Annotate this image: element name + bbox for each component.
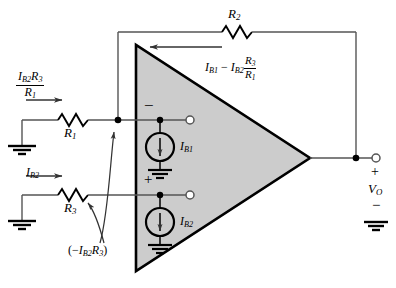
callout-arrow-to-inverting-node	[100, 132, 114, 243]
label-source-ib1: IB1	[180, 139, 193, 154]
label-r2: R2	[228, 6, 240, 22]
label-ib2-input-current: IB2	[26, 165, 39, 180]
terminal-noninverting-open-circle	[186, 191, 194, 199]
node-dot-output	[353, 155, 360, 162]
resistor-r2-symbol	[222, 26, 252, 38]
ground-symbol-output	[364, 222, 388, 230]
output-minus-sign: −	[372, 198, 380, 213]
node-dot-inverting	[115, 117, 122, 124]
circuit-svg	[0, 0, 396, 288]
label-source-ib2: IB2	[180, 214, 193, 229]
ground-symbol-r3	[8, 221, 36, 229]
terminal-inverting-open-circle	[186, 116, 194, 124]
schematic-figure: R2 R1 R3 IB2R3 R1 IB1−IB2R3R1 IB2 (−IB2R…	[0, 0, 396, 288]
label-feedback-current: IB1−IB2R3R1	[205, 55, 256, 81]
label-node-voltage-callout: (−IB2R3)	[68, 243, 107, 258]
label-r1: R1	[64, 125, 76, 141]
terminal-output-open-circle	[372, 154, 380, 162]
output-plus-sign: +	[371, 165, 379, 179]
noninverting-input-sign: +	[144, 172, 152, 187]
label-output-voltage: VO	[368, 181, 382, 197]
label-r3: R3	[64, 200, 76, 216]
label-input-drop-fraction: IB2R3 R1	[16, 70, 44, 100]
inverting-input-sign: −	[144, 97, 154, 114]
ground-symbol-r1	[8, 146, 36, 154]
